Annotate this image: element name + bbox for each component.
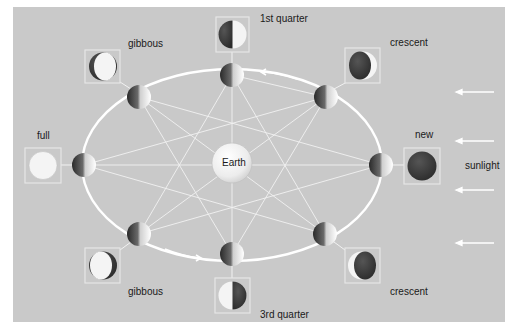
label-gibbous-waxing: gibbous <box>128 38 163 49</box>
label-gibbous-waning: gibbous <box>128 286 163 297</box>
label-full: full <box>37 130 50 141</box>
orbit-moon-top <box>220 63 244 87</box>
sunlight-arrow-icon <box>456 188 494 193</box>
earth-label: Earth <box>222 157 246 168</box>
phase-box-full <box>25 148 61 183</box>
orbit-moon-bottom <box>220 242 244 266</box>
orbit-moon-upper-right <box>314 85 338 109</box>
orbit-moon-lower-right <box>313 222 337 246</box>
phase-box-third-quarter <box>215 278 250 313</box>
orbit-moon-lower-left <box>127 222 151 246</box>
orbit-moon-upper-left <box>127 85 151 109</box>
phase-box-crescent-waning <box>345 248 380 283</box>
phase-box-first-quarter <box>216 17 249 52</box>
sunlight-arrow-icon <box>456 90 494 95</box>
label-crescent-waxing: crescent <box>390 37 428 48</box>
orbit-moon-right <box>369 153 393 177</box>
label-third-quarter: 3rd quarter <box>260 309 309 320</box>
phase-box-gibbous-waxing <box>85 50 120 83</box>
label-new: new <box>415 129 433 140</box>
phase-box-new <box>404 148 440 184</box>
sunlight-arrow-icon <box>456 241 494 246</box>
label-first-quarter: 1st quarter <box>260 13 308 24</box>
sunlight-label: sunlight <box>465 160 499 171</box>
moon-phases-diagram <box>0 0 509 331</box>
phase-box-crescent-waxing <box>345 48 380 83</box>
phase-box-gibbous-waning <box>85 248 120 283</box>
sunlight-arrow-icon <box>456 139 494 144</box>
orbit-moon-left <box>72 153 96 177</box>
label-crescent-waning: crescent <box>390 286 428 297</box>
